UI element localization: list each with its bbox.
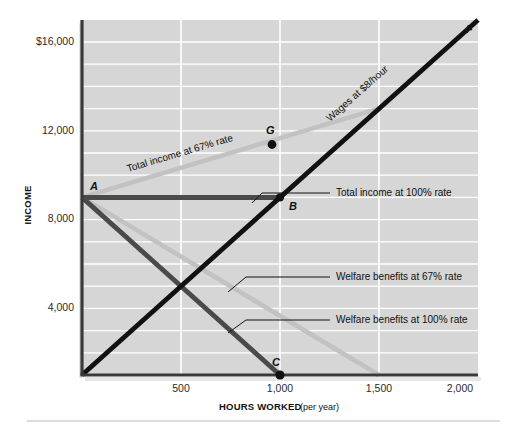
data-point-label-b: B	[289, 200, 297, 212]
x-axis-title: HOURS WORKED	[219, 401, 302, 412]
y-tick-label-8000: 8,000	[48, 212, 74, 224]
y-tick-label-16000: $16,000	[36, 35, 74, 47]
y-tick-labels: $16,000 12,000 8,000 4,000	[36, 35, 74, 313]
data-point-label-g: G	[266, 124, 275, 136]
series-label-welfare-benefits-100: Welfare benefits at 100% rate	[336, 314, 468, 325]
data-point-label-a: A	[89, 180, 98, 192]
y-tick-label-12000: 12,000	[42, 124, 74, 136]
data-point-label-c: C	[272, 356, 281, 368]
data-point-marker-g	[268, 140, 277, 149]
series-label-welfare-benefits-67: Welfare benefits at 67% rate	[336, 271, 462, 282]
income-vs-hours-chart: $16,000 12,000 8,000 4,000 500 1,000 1,5…	[0, 0, 513, 438]
y-tick-label-4000: 4,000	[48, 301, 74, 313]
x-tick-label-1500: 1,500	[366, 382, 392, 394]
x-axis-title-suffix: (per year)	[300, 402, 339, 412]
data-point-label-f: F	[466, 23, 473, 35]
x-tick-labels: 500 1,000 1,500 2,000	[172, 382, 473, 394]
chart-figure: $16,000 12,000 8,000 4,000 500 1,000 1,5…	[0, 0, 513, 438]
y-axis-title: INCOME	[22, 185, 33, 224]
x-tick-label-500: 500	[172, 382, 190, 394]
x-tick-label-1000: 1,000	[267, 382, 293, 394]
data-point-marker-b	[276, 193, 284, 201]
series-label-total-income-100: Total income at 100% rate	[336, 187, 452, 198]
data-point-marker-c	[275, 370, 284, 379]
x-tick-label-2000: 2,000	[447, 382, 473, 394]
x-axis-title-group: HOURS WORKED (per year)	[219, 401, 339, 412]
